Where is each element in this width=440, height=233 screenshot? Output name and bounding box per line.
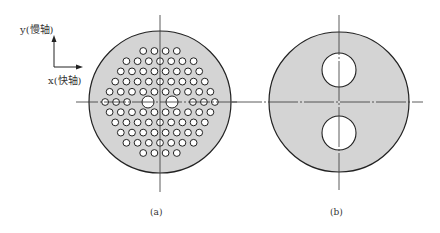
caption-b: (b) [330,207,343,217]
x-axis-label: x(快轴) [48,72,81,87]
caption-a: (a) [150,207,162,217]
axis-legend [52,35,84,70]
figure-canvas [0,0,440,233]
arrow-up-icon [52,35,57,42]
y-axis-label: y(慢轴) [20,21,53,36]
arrow-right-icon [76,65,83,70]
